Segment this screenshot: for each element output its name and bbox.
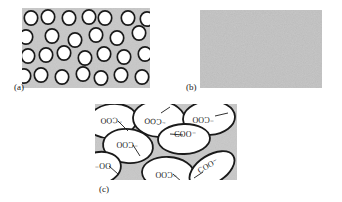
droplet-circle: [97, 47, 110, 61]
droplet-circle: [94, 71, 107, 85]
carboxylate-group-label: OO⁻: [95, 161, 111, 170]
droplet-circle: [55, 70, 68, 84]
droplet-circle: [39, 48, 52, 62]
droplet-circle: [114, 68, 127, 82]
droplet-circle: [135, 70, 148, 84]
panel-a-label: (a): [14, 82, 24, 92]
droplet-circle: [117, 50, 130, 64]
droplet-circle: [19, 30, 32, 44]
carboxylate-group-label: ⁻COO: [192, 115, 214, 124]
carboxylate-group-label: ⁻COO: [100, 116, 122, 126]
carboxylate-group-label: ⁻COO: [116, 140, 138, 149]
panel-b: (b): [186, 10, 322, 92]
droplet-circle: [82, 10, 95, 24]
figure-root: (a) (b) ⁻COO⁻COO⁻COO⁻COOCOO⁻⁻COOCOO⁻OO⁻ …: [0, 0, 342, 202]
carboxylate-group-label: ⁻COO: [155, 170, 177, 179]
droplet-circle: [24, 11, 37, 25]
panel-a: (a): [14, 8, 154, 92]
droplet-circle: [78, 51, 91, 65]
droplet-circle: [41, 10, 54, 24]
droplet-circle: [98, 11, 111, 25]
panel-b-label: (b): [186, 82, 197, 92]
droplet-circle: [110, 31, 123, 45]
micelle-figure: (a) (b) ⁻COO⁻COO⁻COO⁻COOCOO⁻⁻COOCOO⁻OO⁻ …: [0, 0, 342, 202]
carboxylate-group-label: COO⁻: [174, 130, 196, 139]
panel-b-background: [200, 10, 322, 88]
droplet-circle: [121, 11, 134, 25]
droplet-circle: [68, 33, 81, 47]
droplet-circle: [45, 29, 58, 43]
droplet-circle: [57, 46, 70, 60]
droplet-circle: [76, 67, 89, 81]
droplet-circle: [21, 49, 34, 63]
panel-c: ⁻COO⁻COO⁻COO⁻COOCOO⁻⁻COOCOO⁻OO⁻ (c): [75, 99, 241, 194]
droplet-circle: [140, 12, 153, 26]
droplet-circle: [34, 68, 47, 82]
droplet-circle: [132, 26, 145, 40]
droplet-circle: [89, 28, 102, 42]
droplet-circle: [62, 11, 75, 25]
panel-c-label: (c): [99, 184, 109, 194]
droplet-circle: [138, 47, 151, 61]
carboxylate-group-label: ⁻COO: [144, 117, 166, 127]
